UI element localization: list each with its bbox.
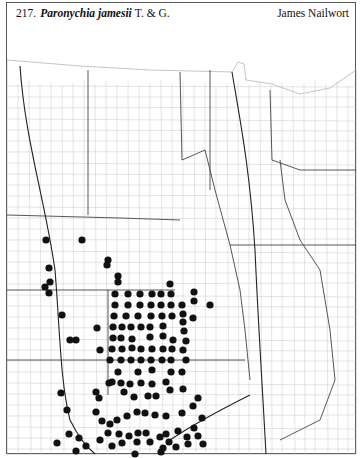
occurrence-dot: [92, 388, 99, 395]
occurrence-dot: [127, 323, 134, 330]
occurrence-dot: [63, 406, 70, 413]
occurrence-dot: [75, 434, 82, 441]
occurrence-dot: [179, 385, 186, 392]
occurrence-dot: [126, 380, 133, 387]
occurrence-dot: [147, 356, 154, 363]
occurrence-dot: [42, 236, 49, 243]
occurrence-dot: [182, 356, 189, 363]
occurrence-dot: [128, 344, 135, 351]
occurrence-dot: [103, 261, 110, 268]
occurrence-dot: [118, 345, 125, 352]
state-boundaries: [7, 70, 356, 440]
occurrence-dot: [65, 430, 72, 437]
occurrence-dot: [179, 310, 186, 317]
occurrence-dot: [53, 439, 60, 446]
occurrence-dot: [147, 312, 154, 319]
occurrence-dot: [179, 346, 186, 353]
occurrence-dot: [128, 335, 135, 342]
occurrence-dot: [108, 378, 115, 385]
occurrence-dot: [166, 386, 173, 393]
occurrence-dot: [178, 368, 185, 375]
occurrence-dot: [136, 290, 143, 297]
occurrence-dot: [96, 346, 103, 353]
occurrence-dot: [45, 264, 52, 271]
occurrence-dot: [110, 312, 117, 319]
occurrence-dot: [148, 345, 155, 352]
occurrence-dot: [141, 409, 148, 416]
occurrence-dot: [109, 323, 116, 330]
occurrence-dot: [137, 345, 144, 352]
occurrence-dot: [133, 408, 140, 415]
occurrence-dot: [165, 438, 172, 445]
occurrence-dot: [118, 323, 125, 330]
occurrence-dot: [189, 402, 196, 409]
occurrence-dot: [114, 278, 121, 285]
occurrence-dot: [169, 336, 176, 343]
occurrence-dot: [148, 366, 155, 373]
occurrence-dot: [151, 411, 158, 418]
occurrence-dot: [104, 429, 111, 436]
occurrence-dot: [93, 324, 100, 331]
occurrence-dot: [124, 290, 131, 297]
occurrence-dot: [117, 334, 124, 341]
occurrence-dot: [194, 394, 201, 401]
occurrence-dot: [98, 417, 105, 424]
occurrence-dot: [118, 439, 125, 446]
occurrence-dot: [179, 318, 186, 325]
occurrence-dot: [115, 430, 122, 437]
occurrence-dot: [168, 312, 175, 319]
occurrence-dot: [41, 283, 48, 290]
occurrence-dot: [147, 301, 154, 308]
occurrence-dot: [146, 323, 153, 330]
occurrence-dot: [136, 301, 143, 308]
occurrence-dot: [189, 314, 196, 321]
occurrence-dot: [159, 345, 166, 352]
occurrence-dot: [162, 430, 169, 437]
occurrence-dot: [174, 427, 181, 434]
occurrence-dot: [158, 312, 165, 319]
occurrence-dot: [148, 290, 155, 297]
occurrence-dot: [146, 438, 153, 445]
occurrence-dot: [178, 301, 185, 308]
occurrence-dot: [178, 409, 185, 416]
occurrence-dot: [159, 322, 166, 329]
occurrence-dot: [167, 356, 174, 363]
occurrence-dot: [184, 440, 191, 447]
occurrence-dot: [194, 432, 201, 439]
occurrence-dot: [157, 448, 164, 455]
occurrence-dot: [82, 442, 89, 449]
occurrence-dot: [58, 311, 65, 318]
occurrence-dot: [190, 424, 197, 431]
occurrence-dot: [113, 416, 120, 423]
occurrence-dot: [120, 388, 127, 395]
occurrence-dot: [137, 323, 144, 330]
occurrence-dot: [111, 301, 118, 308]
occurrence-dot: [130, 393, 137, 400]
occurrence-dot: [190, 297, 197, 304]
occurrence-dot: [148, 380, 155, 387]
occurrence-dot: [134, 312, 141, 319]
occurrence-dot: [162, 378, 169, 385]
occurrence-dot: [131, 450, 138, 457]
occurrence-dot: [144, 392, 151, 399]
occurrence-dot: [124, 301, 131, 308]
occurrence-dot: [108, 442, 115, 449]
occurrence-dot: [199, 440, 206, 447]
occurrence-dot: [190, 288, 197, 295]
occurrence-dot: [57, 389, 64, 396]
occurrence-dot: [167, 368, 174, 375]
occurrence-dot: [78, 236, 85, 243]
occurrence-dot: [167, 290, 174, 297]
occurrence-dot: [180, 327, 187, 334]
occurrence-dot: [106, 420, 113, 427]
occurrence-dot: [182, 337, 189, 344]
occurrence-dot: [157, 290, 164, 297]
occurrence-dot: [158, 356, 165, 363]
occurrence-dot: [152, 392, 159, 399]
occurrence-dots: [41, 236, 213, 457]
occurrence-dot: [137, 356, 144, 363]
occurrence-dot: [45, 289, 52, 296]
occurrence-dot: [198, 414, 205, 421]
occurrence-dot: [168, 345, 175, 352]
occurrence-dot: [114, 368, 121, 375]
